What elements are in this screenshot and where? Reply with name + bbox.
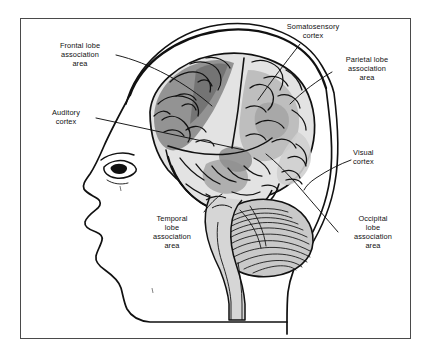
label-somatosensory-cortex: Somatosensory cortex (274, 22, 352, 40)
eye (101, 153, 136, 191)
label-temporal-lobe-association-area: Temporal lobe association area (139, 214, 205, 250)
label-visual-cortex: Visual cortex (353, 148, 399, 166)
label-auditory-cortex: Auditory cortex (37, 108, 95, 126)
label-frontal-lobe-association-area: Frontal lobe association area (46, 41, 114, 68)
leader-visual (304, 160, 351, 190)
brain-diagram-figure: Frontal lobe association area Somatosens… (0, 0, 428, 357)
label-parietal-lobe-association-area: Parietal lobe association area (334, 55, 400, 82)
label-occipital-lobe-association-area: Occipital lobe association area (340, 214, 406, 250)
scan-artifacts (152, 288, 153, 293)
